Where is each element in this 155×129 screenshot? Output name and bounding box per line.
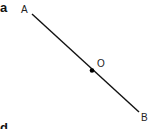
point-label-a: A <box>21 5 28 15</box>
point-o-dot <box>90 68 95 73</box>
segment-ab <box>32 14 139 112</box>
point-label-o: O <box>97 59 105 69</box>
point-label-b: B <box>141 113 148 123</box>
diagram-canvas <box>0 0 155 129</box>
panel-label-a: a <box>0 1 7 14</box>
panel-label-d: d <box>0 121 8 129</box>
